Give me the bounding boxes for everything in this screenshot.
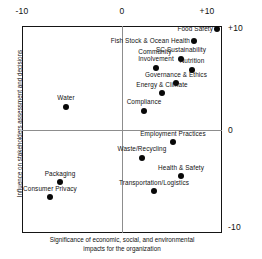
x-tick-minus-10: -10: [16, 6, 29, 16]
data-point-label: Fish Stock & Ocean Health: [111, 38, 190, 45]
y-tick-plus-10: +10: [228, 23, 243, 33]
data-point-label: Waste/Recycling: [118, 145, 167, 152]
x-axis-label: Significance of economic, social, and en…: [22, 236, 222, 253]
y-tick-minus-10: -10: [228, 222, 241, 232]
data-point-label: Energy & Climate: [136, 81, 187, 88]
data-point-label: Employment Practices: [140, 130, 206, 137]
data-point: [141, 108, 147, 114]
data-point-label: Consumer Privacy: [23, 185, 77, 192]
data-point-label: Packaging: [45, 170, 76, 177]
data-point-label: Transportation/Logistics: [119, 179, 189, 186]
x-axis-label-line1: Significance of economic, social, and en…: [50, 236, 195, 243]
data-point: [214, 26, 220, 32]
data-point-label: Compliance: [127, 98, 162, 105]
x-tick-plus-10: +10: [199, 6, 214, 16]
y-tick-zero: 0: [228, 125, 233, 135]
data-point: [63, 104, 69, 110]
data-point-label: Nutrition: [180, 57, 205, 64]
y-axis-label: Influence on stakeholders assessment and…: [16, 49, 23, 199]
data-point-label: Community Involvement: [138, 48, 174, 63]
materiality-matrix-chart: -10 0 +10 +10 0 -10 Food SafetyFish Stoc…: [0, 0, 262, 259]
x-axis-label-line2: impacts for the organization: [83, 245, 160, 252]
data-point-label: Food Safety: [177, 25, 213, 32]
data-point-label: Health & Safety: [158, 164, 204, 171]
data-point: [139, 155, 145, 161]
data-point-label: Water: [57, 94, 74, 101]
x-tick-zero: 0: [120, 6, 125, 16]
data-point-label: Governance & Ethics: [145, 71, 207, 78]
